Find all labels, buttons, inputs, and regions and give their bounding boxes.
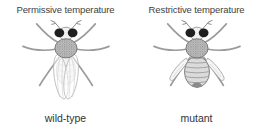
genotype-label-mutant: mutant [180,112,212,125]
mutant-fly-icon [147,18,247,106]
panel-permissive: Permissive temperature [0,0,131,132]
condition-label-restrictive: Restrictive temperature [149,4,245,16]
genotype-label-wild-type: wild-type [45,112,86,125]
wild-type-fly-icon [16,18,116,106]
panel-restrictive: Restrictive temperature [131,0,262,132]
figure-temperature-sensitive-mutant: Permissive temperature [0,0,262,132]
two-panel-figure: Permissive temperature [0,0,262,132]
condition-label-permissive: Permissive temperature [16,4,114,16]
